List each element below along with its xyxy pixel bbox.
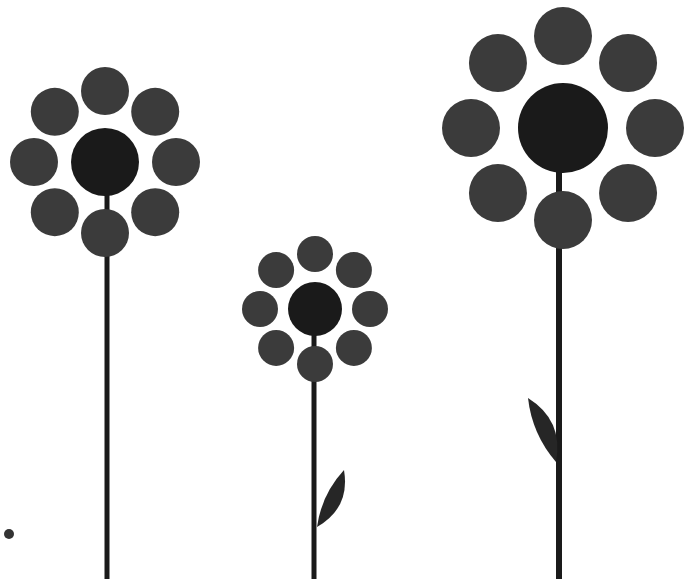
flower-left-petal-2 — [131, 88, 179, 136]
flower-left-petal-8 — [31, 88, 79, 136]
flower-right-petal-5 — [534, 191, 592, 249]
flower-left-petal-3 — [152, 138, 200, 186]
flower-middle-petal-6 — [258, 330, 294, 366]
flower-right-petal-4 — [599, 164, 657, 222]
flower-left-petal-6 — [31, 188, 79, 236]
flower-right-petal-6 — [469, 164, 527, 222]
flower-right-center — [518, 83, 608, 173]
flower-middle-petal-2 — [336, 252, 372, 288]
flower-left-center — [71, 128, 139, 196]
illustration-canvas — [0, 0, 693, 579]
flower-middle-petal-3 — [352, 291, 388, 327]
flower-middle-center — [288, 282, 342, 336]
flower-right-petal-3 — [626, 99, 684, 157]
flower-middle-petal-5 — [297, 346, 333, 382]
flower-left-petal-7 — [10, 138, 58, 186]
flower-right — [442, 7, 684, 249]
flower-middle-petal-7 — [242, 291, 278, 327]
flower-left-petal-5 — [81, 209, 129, 257]
flower-left-petal-1 — [81, 67, 129, 115]
accent-dot — [4, 529, 14, 539]
flower-middle-petal-4 — [336, 330, 372, 366]
flower-right-petal-8 — [469, 34, 527, 92]
accent-layer — [4, 529, 14, 539]
flower-right-petal-2 — [599, 34, 657, 92]
flower-right-petal-1 — [534, 7, 592, 65]
flower-middle-petal-8 — [258, 252, 294, 288]
flower-right-petal-7 — [442, 99, 500, 157]
flower-left-petal-4 — [131, 188, 179, 236]
flowers-svg — [0, 0, 693, 579]
flower-middle-petal-1 — [297, 236, 333, 272]
flower-left — [10, 67, 200, 257]
flower-middle — [242, 236, 388, 382]
